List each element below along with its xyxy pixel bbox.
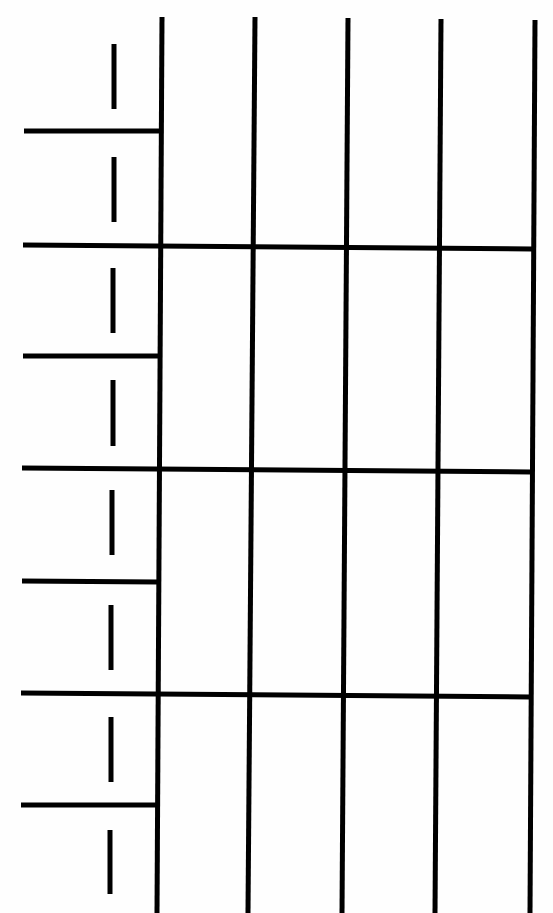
worksheet-grid bbox=[0, 0, 553, 913]
vertical-line-3 bbox=[342, 18, 348, 913]
vertical-line-2 bbox=[248, 17, 255, 913]
vertical-line-1 bbox=[157, 17, 162, 913]
short-horizontal-line-3 bbox=[22, 581, 158, 582]
vertical-line-4 bbox=[435, 19, 441, 913]
worksheet-page bbox=[0, 0, 553, 913]
vertical-line-5 bbox=[530, 20, 535, 913]
full-horizontal-grid-lines bbox=[21, 245, 532, 697]
horizontal-line-1 bbox=[23, 245, 532, 249]
horizontal-line-2 bbox=[22, 468, 531, 472]
vertical-grid-lines bbox=[157, 17, 535, 913]
horizontal-line-3 bbox=[21, 693, 530, 697]
